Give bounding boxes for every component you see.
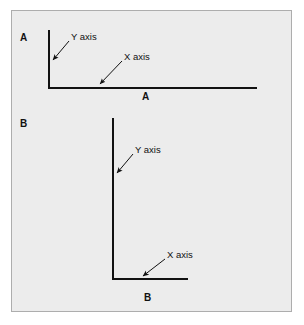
panel-a-y-axis-label: Y axis xyxy=(71,31,97,42)
panel-a-x-axis-label: X axis xyxy=(124,51,150,62)
panel-b-y-axis-label: Y axis xyxy=(135,144,161,155)
panel-a-caption: A xyxy=(142,91,149,102)
figure-panel-border xyxy=(11,10,292,312)
panel-b-letter: B xyxy=(20,118,27,129)
panel-a-letter: A xyxy=(20,32,27,43)
figure-root: A Y axis X axis A B Y axis X axis B xyxy=(0,0,304,325)
panel-b-caption: B xyxy=(144,292,151,303)
panel-b-x-axis-label: X axis xyxy=(167,249,193,260)
